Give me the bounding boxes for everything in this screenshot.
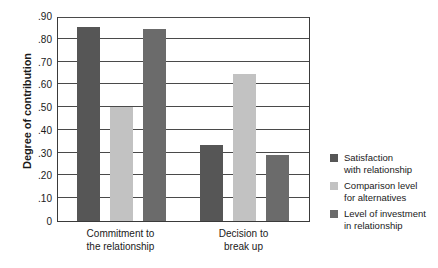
y-axis-tick-label: .70 bbox=[12, 58, 52, 68]
bar bbox=[143, 29, 166, 221]
bar-chart-figure: Degree of contribution .90.80.70.60.50.4… bbox=[0, 0, 438, 268]
legend-item: Satisfactionwith relationship bbox=[330, 152, 438, 175]
y-axis-tick-label: 0 bbox=[12, 217, 52, 227]
x-axis-group-label-line: break up bbox=[179, 241, 309, 254]
x-axis-group-label: Decision tobreak up bbox=[179, 228, 309, 253]
legend-swatch-icon bbox=[330, 182, 338, 190]
x-axis-group-label: Commitment tothe relationship bbox=[56, 228, 186, 253]
bar bbox=[77, 27, 100, 221]
legend-label-line: Comparison level bbox=[344, 180, 438, 192]
legend-label: Satisfactionwith relationship bbox=[344, 152, 438, 175]
legend-swatch-icon bbox=[330, 210, 338, 218]
y-axis-tick-label: .90 bbox=[12, 12, 52, 22]
bar bbox=[200, 145, 223, 221]
x-axis-group-label-line: the relationship bbox=[56, 241, 186, 254]
bar bbox=[233, 74, 256, 221]
y-axis-tick-label: .20 bbox=[12, 171, 52, 181]
x-axis-group-label-line: Commitment to bbox=[56, 228, 186, 241]
legend-label-line: in relationship bbox=[344, 220, 438, 232]
legend-item: Comparison levelfor alternatives bbox=[330, 180, 438, 203]
legend-label-line: Level of investment bbox=[344, 208, 438, 220]
bar-group bbox=[200, 17, 289, 221]
bar bbox=[110, 107, 133, 221]
plot-area bbox=[57, 17, 310, 222]
chart-legend: Satisfactionwith relationshipComparison … bbox=[330, 152, 438, 236]
bar-group bbox=[77, 17, 166, 221]
legend-label-line: with relationship bbox=[344, 164, 438, 176]
y-axis-tick-label: .80 bbox=[12, 35, 52, 45]
legend-label: Level of investmentin relationship bbox=[344, 208, 438, 231]
y-axis-tick-labels: .90.80.70.60.50.40.30.20.100 bbox=[12, 17, 52, 222]
legend-label-line: for alternatives bbox=[344, 192, 438, 204]
x-axis-group-label-line: Decision to bbox=[179, 228, 309, 241]
y-axis-tick-label: .10 bbox=[12, 194, 52, 204]
legend-label-line: Satisfaction bbox=[344, 152, 438, 164]
y-axis-tick-label: .60 bbox=[12, 80, 52, 90]
legend-swatch-icon bbox=[330, 154, 338, 162]
legend-item: Level of investmentin relationship bbox=[330, 208, 438, 231]
y-axis-tick-label: .50 bbox=[12, 103, 52, 113]
legend-label: Comparison levelfor alternatives bbox=[344, 180, 438, 203]
y-axis-tick-label: .40 bbox=[12, 126, 52, 136]
bar bbox=[266, 155, 289, 221]
y-axis-tick-label: .30 bbox=[12, 149, 52, 159]
plot-inner bbox=[58, 17, 309, 221]
